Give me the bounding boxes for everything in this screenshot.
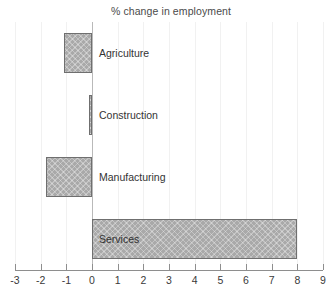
category-label-services: Services	[99, 234, 139, 245]
x-tick	[195, 264, 196, 270]
bar-manufacturing	[46, 157, 92, 197]
gridline	[323, 22, 324, 270]
x-tick	[246, 264, 247, 270]
x-axis-line	[15, 270, 323, 271]
category-label-construction: Construction	[99, 110, 158, 121]
bar-agriculture	[64, 33, 92, 73]
x-tick	[169, 264, 170, 270]
x-tick-label: 8	[286, 275, 308, 286]
x-tick	[297, 264, 298, 270]
category-label-manufacturing: Manufacturing	[99, 172, 166, 183]
bar-chart: % change in employment AgricultureConstr…	[0, 0, 330, 299]
gridline	[15, 22, 16, 270]
x-tick	[118, 264, 119, 270]
gridline	[41, 22, 42, 270]
x-tick	[272, 264, 273, 270]
x-tick-label: 1	[107, 275, 129, 286]
x-tick-label: 6	[235, 275, 257, 286]
plot-area: AgricultureConstructionManufacturingServ…	[15, 22, 323, 270]
gridline	[297, 22, 298, 270]
x-tick	[143, 264, 144, 270]
x-tick-label: 0	[81, 275, 103, 286]
x-tick-label: 2	[132, 275, 154, 286]
x-tick-label: 4	[184, 275, 206, 286]
x-tick	[220, 264, 221, 270]
x-tick-label: -3	[4, 275, 26, 286]
x-tick	[41, 264, 42, 270]
x-tick-label: 9	[312, 275, 330, 286]
bar-construction	[89, 95, 92, 135]
x-tick	[66, 264, 67, 270]
x-tick-label: 7	[261, 275, 283, 286]
chart-title: % change in employment	[0, 5, 330, 17]
x-tick	[323, 264, 324, 270]
x-tick-label: -2	[30, 275, 52, 286]
x-tick	[92, 264, 93, 270]
x-tick-label: -1	[55, 275, 77, 286]
x-tick-label: 3	[158, 275, 180, 286]
x-tick	[15, 264, 16, 270]
category-label-agriculture: Agriculture	[99, 48, 149, 59]
x-tick-label: 5	[209, 275, 231, 286]
